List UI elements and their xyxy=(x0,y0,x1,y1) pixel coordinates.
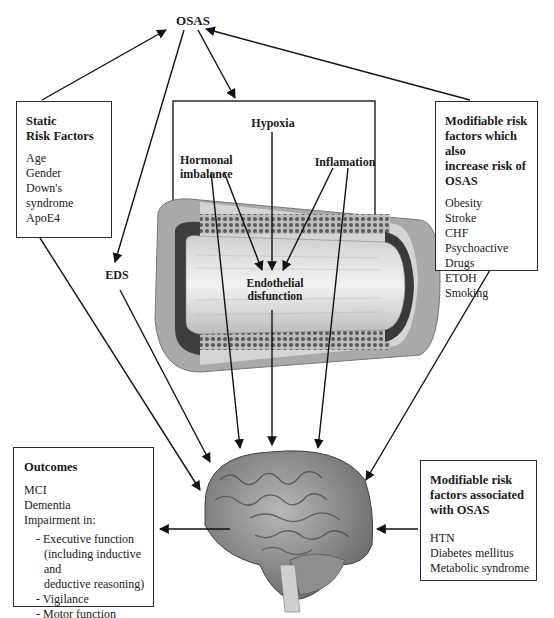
endothelial-line-2: disfunction xyxy=(240,290,310,303)
modifiable-increase-item: Smoking xyxy=(445,286,537,301)
outcome-item: Dementia xyxy=(24,498,153,513)
modifiable-risk-associated-box: Modifiable risk factors associated with … xyxy=(420,460,537,581)
outcome-item: MCI xyxy=(24,483,153,498)
outcome-sub-item: deductive reasoning) xyxy=(24,577,153,592)
arrow-modifiable-to-osas xyxy=(206,29,470,100)
static-risk-item: Age xyxy=(26,151,111,166)
modifiable-increase-item: Psychoactive Drugs xyxy=(445,241,537,271)
modifiable-increase-title-4: OSAS xyxy=(445,174,537,189)
modifiable-increase-item: CHF xyxy=(445,226,537,241)
modifiable-increase-title-2: factors which also xyxy=(445,129,537,159)
modifiable-associated-title-2: factors associated xyxy=(430,488,536,503)
outcome-sub-item: - Executive function xyxy=(24,532,153,547)
arrow-osas-to-vessel xyxy=(198,30,235,98)
static-risk-title-1: Static xyxy=(26,114,111,129)
outcome-sub-item: - Vigilance xyxy=(24,592,153,607)
modifiable-associated-item: HTN xyxy=(430,531,536,546)
eds-node: EDS xyxy=(100,268,134,282)
modifiable-increase-title-1: Modifiable risk xyxy=(445,114,537,129)
modifiable-increase-item: Stroke xyxy=(445,211,537,226)
hormonal-line-1: Hormonal xyxy=(180,153,250,167)
static-risk-item: Gender xyxy=(26,166,111,181)
outcomes-title: Outcomes xyxy=(24,460,153,475)
outcome-sub-item: - Motor function xyxy=(24,607,153,618)
modifiable-increase-title-3: increase risk of xyxy=(445,159,537,174)
static-risk-item: ApoE4 xyxy=(26,211,111,226)
modifiable-associated-title-3: with OSAS xyxy=(430,503,536,518)
modifiable-increase-item: ETOH xyxy=(445,271,537,286)
hypoxia-label: Hypoxia xyxy=(245,116,301,130)
outcome-sub-item: (including inductive and xyxy=(24,547,153,577)
static-risk-factors-box: Static Risk Factors Age Gender Down's sy… xyxy=(16,101,112,238)
modifiable-associated-item: Diabetes mellitus xyxy=(430,546,536,561)
hormonal-line-2: imbalance xyxy=(180,167,250,181)
static-risk-title-2: Risk Factors xyxy=(26,129,111,144)
modifiable-risk-increase-box: Modifiable risk factors which also incre… xyxy=(435,101,538,271)
endothelial-disfunction-label: Endothelial disfunction xyxy=(240,277,310,303)
endothelial-line-1: Endothelial xyxy=(240,277,310,290)
inflamation-label: Inflamation xyxy=(314,155,376,169)
osas-node: OSAS xyxy=(168,14,218,28)
hormonal-imbalance-label: Hormonal imbalance xyxy=(180,153,250,181)
outcome-item: Impairment in: xyxy=(24,513,153,528)
arrow-static-to-osas xyxy=(42,30,166,100)
modifiable-associated-title-1: Modifiable risk xyxy=(430,473,536,488)
static-risk-item: Down's syndrome xyxy=(26,181,111,211)
modifiable-increase-item: Obesity xyxy=(445,196,537,211)
brain-illustration xyxy=(205,451,373,612)
outcomes-box: Outcomes MCI Dementia Impairment in: - E… xyxy=(13,447,154,607)
modifiable-associated-item: Metabolic syndrome xyxy=(430,561,536,576)
